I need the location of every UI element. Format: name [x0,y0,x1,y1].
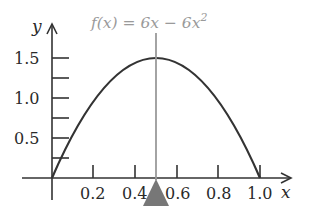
chart: y x 1.5 1.0 0.5 0.2 0.4 0.6 0.8 1.0 f(x)… [0,0,310,220]
function-formula: f(x) = 6x − 6x2 [90,11,207,32]
y-tick-label-0.5: 0.5 [14,129,39,148]
x-tick-label-0.4: 0.4 [122,184,147,203]
x-ticks [93,165,260,178]
x-tick-label-0.8: 0.8 [206,184,231,203]
y-tick-label-1.0: 1.0 [14,89,39,108]
y-tick-label-1.5: 1.5 [14,49,39,68]
x-tick-label-0.6: 0.6 [165,184,190,203]
y-axis-label: y [31,16,42,36]
x-axis-label: x [281,182,291,202]
x-tick-label-1.0: 1.0 [247,184,272,203]
y-ticks [52,58,69,158]
x-tick-label-0.2: 0.2 [80,184,105,203]
